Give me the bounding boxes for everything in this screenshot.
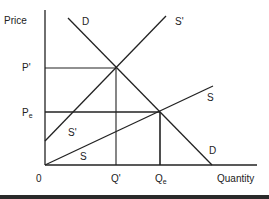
demand-curve	[68, 18, 212, 165]
q-prime-label: Q'	[111, 173, 121, 184]
demand-label-bottom: D	[209, 145, 216, 156]
supply-demand-diagram: Price Quantity 0 P' Pe Q' Qe D D S' S' S…	[0, 0, 269, 199]
x-axis-label: Quantity	[217, 173, 254, 184]
qe-label: Qe	[155, 173, 167, 185]
p-prime-label: P'	[22, 62, 31, 73]
bottom-border	[0, 195, 269, 199]
supply-curve	[45, 86, 213, 165]
supply-prime-label-top: S'	[175, 16, 184, 27]
y-axis-label: Price	[4, 15, 27, 26]
demand-label-top: D	[82, 16, 89, 27]
supply-label-top: S	[207, 92, 214, 103]
origin-label: 0	[36, 173, 42, 184]
pe-label: Pe	[22, 107, 33, 119]
supply-label-bottom: S	[80, 151, 87, 162]
supply-prime-curve	[45, 16, 166, 141]
supply-prime-label-bottom: S'	[68, 127, 77, 138]
